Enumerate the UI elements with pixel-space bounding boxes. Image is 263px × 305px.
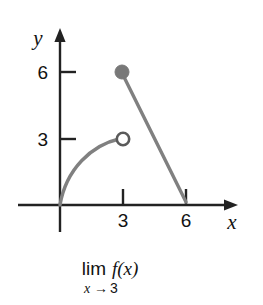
open-point-marker [117, 133, 129, 145]
closed-point-marker [115, 65, 129, 79]
limit-graph-svg: y x 6 3 3 6 lim f(x) x → 3 [0, 0, 263, 305]
caption-sub-value: 3 [110, 280, 118, 296]
y-axis-arrowhead [54, 28, 65, 42]
y-tick-label-6: 6 [37, 62, 48, 83]
x-tick-label-6: 6 [181, 210, 192, 231]
segment-right-branch [124, 77, 186, 202]
caption-sub-variable: x [83, 281, 91, 296]
x-axis-label: x [226, 210, 237, 234]
y-tick-label-3: 3 [37, 129, 48, 150]
figure-root: y x 6 3 3 6 lim f(x) x → 3 [0, 0, 263, 305]
caption-sub-arrow: → [94, 280, 108, 296]
caption-lim: lim [82, 258, 106, 279]
caption-function: f(x) [112, 258, 138, 280]
curve-left-branch [60, 139, 119, 205]
y-axis-label: y [31, 26, 43, 50]
x-axis-arrowhead [224, 199, 238, 210]
x-tick-label-3: 3 [118, 210, 129, 231]
